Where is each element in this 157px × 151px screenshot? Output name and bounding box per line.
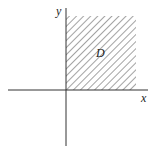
x-axis-label: x	[140, 91, 147, 105]
region-label: D	[95, 46, 105, 60]
diagram: D x y	[0, 0, 157, 151]
diagram-canvas: D x y	[0, 0, 157, 151]
y-axis-label: y	[55, 4, 62, 18]
